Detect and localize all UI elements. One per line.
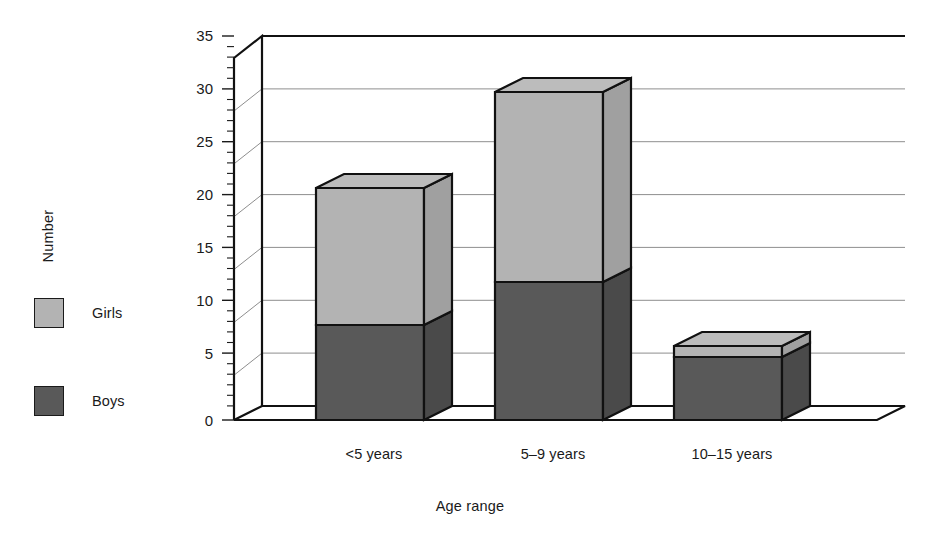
- bar-1-boys-front: [495, 282, 603, 420]
- bar-1-girls-side: [603, 78, 631, 282]
- y-tick-label-35: 35: [183, 28, 213, 43]
- bar-0-boys-front: [316, 325, 424, 420]
- x-tick-label-1: 5–9 years: [473, 446, 633, 462]
- bar-1-girls-front: [495, 92, 603, 282]
- depth-connectors: [234, 89, 262, 375]
- y-tick-label-15: 15: [183, 240, 213, 255]
- bar-group-2: [674, 332, 810, 420]
- bar-0-boys-side: [424, 311, 452, 420]
- bar-2-girls-front: [674, 346, 782, 357]
- bar-group-1: [495, 78, 631, 420]
- y-axis-title: Number: [40, 176, 56, 296]
- x-tick-label-0: <5 years: [294, 446, 454, 462]
- x-tick-label-2: 10–15 years: [652, 446, 812, 462]
- y-tick-label-25: 25: [183, 134, 213, 149]
- bar-0-girls-side: [424, 174, 452, 325]
- bar-0-girls-front: [316, 188, 424, 325]
- y-tick-label-5: 5: [183, 346, 213, 361]
- bar-2-boys-front: [674, 357, 782, 420]
- chart-canvas: .gl { stroke:#8e8e8e; stroke-width:1; } …: [0, 0, 940, 546]
- bar-group-0: [316, 174, 452, 420]
- x-axis-title: Age range: [0, 498, 940, 514]
- y-tick-label-0: 0: [183, 413, 213, 428]
- y-tick-label-20: 20: [183, 187, 213, 202]
- plot-area: .gl { stroke:#8e8e8e; stroke-width:1; } …: [0, 0, 940, 546]
- y-tick-label-10: 10: [183, 293, 213, 308]
- bar-1-boys-side: [603, 268, 631, 420]
- y-tick-label-30: 30: [183, 81, 213, 96]
- y-axis-major-ticks: [222, 36, 234, 420]
- chart-root: Girls Boys .gl { stroke:#8e8e8e; stroke-…: [0, 0, 940, 546]
